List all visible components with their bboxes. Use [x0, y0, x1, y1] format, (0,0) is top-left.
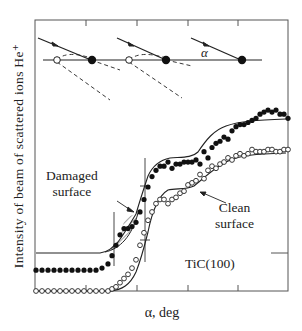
data-point-open [46, 289, 51, 294]
data-point-filled [225, 137, 230, 142]
data-point-filled [273, 107, 278, 112]
data-point-filled [45, 268, 50, 273]
data-point-open [166, 201, 171, 206]
data-point-open [174, 195, 179, 200]
data-point-open [142, 230, 147, 235]
data-point-open [202, 176, 207, 181]
data-point-open [114, 284, 119, 289]
data-point-filled [205, 155, 210, 160]
data-point-filled [75, 268, 80, 273]
data-point-filled [57, 268, 62, 273]
data-point-filled [87, 268, 92, 273]
data-point-filled [217, 139, 222, 144]
data-point-open [88, 289, 93, 294]
data-point-filled [285, 116, 290, 121]
data-point-filled [117, 232, 122, 237]
data-point-open [246, 151, 251, 156]
data-point-open [146, 218, 151, 223]
data-point-filled [197, 162, 202, 167]
data-point-open [122, 276, 127, 281]
data-point-filled [109, 253, 114, 258]
data-point-filled [209, 145, 214, 150]
data-point-filled [141, 197, 146, 202]
data-point-filled [169, 166, 174, 171]
annotation-clean-surface: Cleansurface [215, 200, 254, 232]
data-point-filled [153, 168, 158, 173]
data-point-filled [193, 157, 198, 162]
data-point-filled [281, 112, 286, 117]
data-point-open [34, 289, 39, 294]
data-point-filled [93, 268, 98, 273]
annotation-damaged-surface: Damagedsurface [46, 168, 98, 200]
data-point-open [230, 158, 235, 163]
data-point-open [70, 289, 75, 294]
data-point-open [162, 197, 167, 202]
data-point-filled [145, 184, 150, 189]
data-point-filled [81, 268, 86, 273]
data-point-filled [99, 266, 104, 271]
y-axis-label: Intensity of beam of scattered ions He⁺ [10, 44, 27, 268]
data-point-open [214, 166, 219, 171]
data-point-filled [137, 209, 142, 214]
data-point-filled [39, 268, 44, 273]
data-point-filled [33, 268, 38, 273]
data-point-filled [51, 268, 56, 273]
data-point-filled [129, 224, 134, 229]
data-point-filled [133, 220, 138, 225]
data-point-filled [161, 164, 166, 169]
data-point-open [138, 243, 143, 248]
data-point-filled [201, 149, 206, 154]
data-point-filled [253, 116, 258, 121]
data-point-filled [105, 261, 110, 266]
data-point-filled [63, 268, 68, 273]
data-point-open [222, 160, 227, 165]
data-point-filled [113, 243, 118, 248]
data-point-open [134, 257, 139, 262]
data-point-open [182, 189, 187, 194]
svg-text:α: α [201, 45, 209, 60]
axis-ticks [86, 20, 288, 291]
data-point-open [286, 147, 291, 152]
data-point-open [198, 172, 203, 177]
data-point-open [150, 210, 155, 215]
data-point-filled [165, 159, 170, 164]
data-point-open [64, 289, 69, 294]
data-point-filled [229, 128, 234, 133]
data-point-open [58, 289, 63, 294]
data-point-open [130, 266, 135, 271]
data-point-open [206, 168, 211, 173]
data-point-filled [69, 268, 74, 273]
data-point-open [82, 289, 87, 294]
data-point-open [52, 289, 57, 294]
data-point-open [118, 280, 123, 285]
data-point-open [94, 289, 99, 294]
data-point-open [100, 289, 105, 294]
sample-label: TiC(100) [185, 256, 235, 272]
data-point-open [194, 178, 199, 183]
data-point-filled [149, 174, 154, 179]
data-point-open [154, 201, 159, 206]
data-point-open [126, 272, 131, 277]
inset-schematic: α [38, 38, 262, 100]
data-point-open [76, 289, 81, 294]
chart-canvas: α [0, 0, 302, 331]
data-point-open [40, 289, 45, 294]
x-axis-label: α, deg [145, 305, 180, 321]
